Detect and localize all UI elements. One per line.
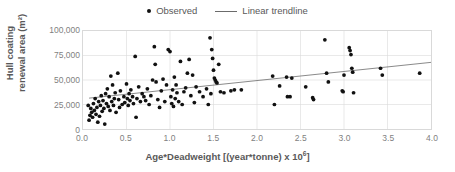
x-tick-1-5: 1.5 bbox=[196, 134, 230, 143]
plot-canvas bbox=[83, 31, 431, 129]
gridlines bbox=[83, 31, 431, 129]
x-tick-0-0: 0.0 bbox=[65, 134, 99, 143]
x-axis-title-main: Age*Deadweight [(year*tonne) x 10 bbox=[145, 151, 302, 162]
x-tick-0-5: 0.5 bbox=[109, 134, 143, 143]
plot-area bbox=[82, 30, 432, 130]
x-tick-2-0: 2.0 bbox=[240, 134, 274, 143]
x-tick-4-0: 4.0 bbox=[415, 134, 449, 143]
x-tick-3-5: 3.5 bbox=[371, 134, 405, 143]
x-tick-1-0: 1.0 bbox=[153, 134, 187, 143]
x-axis-title: Age*Deadweight [(year*tonne) x 106] bbox=[0, 150, 455, 162]
scatter-chart: Observed Linear trendline Hull coating r… bbox=[0, 0, 455, 172]
x-tick-2-5: 2.5 bbox=[284, 134, 318, 143]
x-tick-3-0: 3.0 bbox=[328, 134, 362, 143]
x-axis-title-tail: ] bbox=[306, 151, 309, 162]
